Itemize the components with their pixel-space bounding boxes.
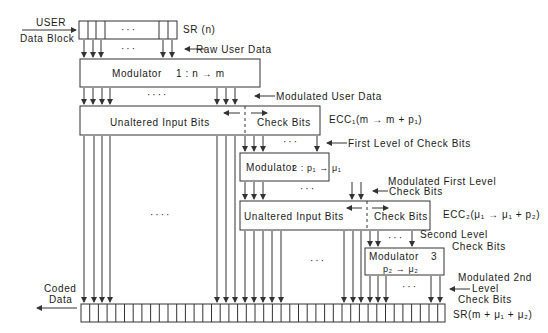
modulated-data-arrows: ···· [84, 88, 235, 104]
modulator-1-ratio: 1 : n → m [176, 68, 225, 79]
svg-text:···: ··· [300, 183, 316, 194]
modulated-user-data-label: Modulated User Data [276, 91, 382, 102]
user-input-group: USER Data Block [20, 17, 76, 44]
unaltered-bit-lines-a: ···· [84, 136, 235, 302]
modulated-second-level-arrows: ··· [370, 276, 440, 302]
second-level-line1: Second Level [420, 229, 488, 240]
svg-text:····: ···· [150, 209, 171, 220]
ecc-2-box: Unaltered Input Bits Check Bits [240, 201, 430, 230]
svg-text:···: ··· [283, 136, 299, 147]
modulator-1-label: Modulator [112, 68, 162, 79]
data-label: Data [49, 294, 73, 305]
coded-data-output: Coded Data [37, 283, 77, 308]
ecc-1-check-label: Check Bits [257, 117, 311, 128]
svg-text:···: ··· [402, 281, 418, 292]
ecc-modulation-diagram: USER Data Block ··· SR (n) ··· Raw User … [0, 0, 548, 333]
svg-text:···: ··· [388, 232, 404, 243]
modulator-3-label: Modulator [369, 251, 419, 262]
second-level-line2: Check Bits [452, 241, 506, 252]
modulated-second-level-line2: Level [472, 283, 499, 294]
modulated-second-level-line3: Check Bits [458, 294, 512, 305]
modulated-second-level-line1: Modulated 2nd [458, 272, 532, 283]
ecc-1-name: ECC₁(m → m + p₁) [329, 114, 422, 125]
ecc-2-unaltered-label: Unaltered Input Bits [244, 211, 344, 222]
modulator-2-ratio: 2 : p₁ → μ₁ [292, 163, 341, 173]
ecc-2-check-label: Check Bits [374, 211, 428, 222]
modulator-3-ratio: p₂ → μ₂ [383, 264, 418, 274]
user-label: USER [36, 17, 66, 28]
coded-label: Coded [44, 283, 76, 294]
register-ellipsis: ··· [121, 24, 137, 35]
input-register-label: SR (n) [183, 24, 216, 35]
modulator-2-label: Modulator [246, 162, 296, 173]
input-shift-register: ··· [79, 21, 177, 39]
modulator-3-box: Modulator 3 p₂ → μ₂ [365, 248, 444, 275]
modulator-3-number: 3 [431, 251, 437, 262]
modulated-first-level-line2: Check Bits [389, 186, 443, 197]
svg-text:···: ··· [310, 255, 326, 266]
unaltered-bit-lines-b: ··· [245, 231, 361, 302]
first-level-check-bits-label: First Level of Check Bits [348, 138, 471, 149]
data-block-label: Data Block [20, 33, 75, 44]
first-level-check-arrows: ··· [245, 136, 317, 151]
output-register-label: SR(m + μ₁ + μ₂) [453, 309, 532, 320]
modulator-1-box: Modulator 1 : n → m [80, 59, 260, 87]
ecc-2-name: ECC₂(μ₁ → μ₁ + p₂) [443, 209, 540, 220]
ecc-1-box: Unaltered Input Bits Check Bits [80, 106, 320, 135]
svg-text:···: ··· [121, 43, 137, 54]
raw-data-arrows: ··· [84, 40, 172, 57]
output-shift-register [81, 304, 445, 322]
second-level-check-arrows: ··· [370, 231, 412, 246]
modulated-first-level-arrows: ··· [245, 182, 361, 199]
svg-text:····: ···· [147, 89, 168, 100]
modulator-2-box: Modulator 2 : p₁ → μ₁ [240, 153, 341, 181]
ecc-1-unaltered-label: Unaltered Input Bits [110, 117, 210, 128]
raw-user-data-label: Raw User Data [196, 44, 272, 55]
